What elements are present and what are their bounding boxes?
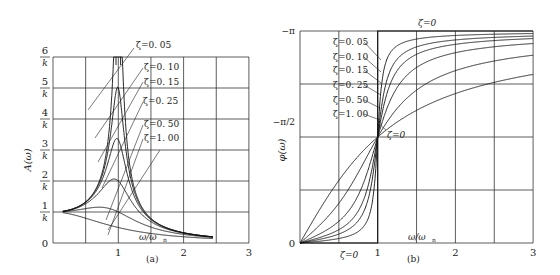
amplitude-panel-label: (a) bbox=[146, 254, 158, 264]
amplitude-y-tick-denominator: k bbox=[42, 120, 47, 130]
phase-zeta0-bottom-label: ζ=0 bbox=[340, 250, 358, 260]
amplitude-x-tick: 2 bbox=[180, 247, 186, 258]
amplitude-x-tick: 1 bbox=[115, 247, 121, 258]
phase-panel-label: (b) bbox=[407, 254, 420, 264]
phase-x-axis-label-main: ω/ω bbox=[408, 232, 426, 242]
phase-plot: −π −π/2 0 123 ζ=0. 05ζ=0. 10ζ=0. 15ζ=0. … bbox=[273, 18, 537, 264]
phase-zeta-label: ζ=0. 15 bbox=[333, 65, 369, 75]
amplitude-y-tick-numerator: 1 bbox=[42, 200, 48, 211]
amplitude-y-tick-numerator: 3 bbox=[42, 138, 48, 149]
phase-zeta-label: ζ=0. 25 bbox=[333, 80, 369, 90]
amplitude-y-tick-numerator: 2 bbox=[42, 169, 48, 180]
amplitude-y-tick-numerator: 5 bbox=[42, 76, 48, 87]
amplitude-x-tick: 3 bbox=[246, 247, 252, 258]
amplitude-zeta-label: ζ=0. 15 bbox=[144, 77, 180, 87]
phase-zeta-label: ζ=1. 00 bbox=[333, 109, 369, 119]
phase-grid bbox=[300, 31, 533, 243]
phase-y-tick-minus-half-pi: −π/2 bbox=[273, 117, 295, 127]
amplitude-x-axis-label-sub: n bbox=[163, 236, 167, 243]
amplitude-y-zero: 0 bbox=[42, 238, 48, 249]
amplitude-zeta-label: ζ=0. 50 bbox=[144, 119, 180, 129]
amplitude-y-tick-denominator: k bbox=[42, 58, 47, 68]
phase-x-tick: 1 bbox=[375, 247, 381, 258]
amplitude-x-ticks: 123 bbox=[115, 247, 252, 258]
amplitude-y-tick-denominator: k bbox=[42, 89, 47, 99]
phase-x-ticks: 123 bbox=[375, 247, 537, 258]
amplitude-y-tick-denominator: k bbox=[42, 151, 47, 161]
amplitude-zeta-labels: ζ=0. 05ζ=0. 10ζ=0. 15ζ=0. 25ζ=0. 50ζ=1. … bbox=[136, 40, 180, 143]
phase-y-tick-minus-pi: −π bbox=[282, 26, 296, 36]
phase-x-tick: 3 bbox=[530, 247, 536, 258]
amplitude-y-tick-numerator: 6 bbox=[42, 45, 48, 56]
phase-zeta-label: ζ=0. 10 bbox=[333, 52, 369, 62]
amplitude-y-axis-label: A(ω) bbox=[22, 148, 33, 172]
phase-zeta0-top-label: ζ=0 bbox=[418, 18, 436, 28]
phase-zeta-label: ζ=0. 05 bbox=[333, 37, 369, 47]
amplitude-zeta-label: ζ=0. 10 bbox=[144, 62, 180, 72]
phase-x-axis-label-sub: n bbox=[432, 236, 436, 243]
amplitude-plot: 1k2k3k4k5k6k 0 123 ζ=0. 05ζ=0. 10ζ=0. 15… bbox=[0, 0, 252, 264]
phase-x-tick: 2 bbox=[452, 247, 458, 258]
phase-zeta-labels: ζ=0. 05ζ=0. 10ζ=0. 15ζ=0. 25ζ=0. 50ζ=1. … bbox=[333, 37, 369, 119]
amplitude-zeta-label: ζ=1. 00 bbox=[144, 133, 180, 143]
amplitude-zeta-label: ζ=0. 05 bbox=[136, 40, 172, 50]
phase-zeta-label: ζ=0. 50 bbox=[333, 95, 369, 105]
phase-y-tick-zero: 0 bbox=[289, 238, 295, 249]
figure: 1k2k3k4k5k6k 0 123 ζ=0. 05ζ=0. 10ζ=0. 15… bbox=[0, 0, 560, 275]
amplitude-y-ticks: 1k2k3k4k5k6k bbox=[40, 45, 50, 223]
amplitude-y-tick-numerator: 4 bbox=[42, 107, 48, 118]
amplitude-x-axis-label-main: ω/ω bbox=[139, 232, 157, 242]
phase-y-axis-label: φ(ω) bbox=[276, 138, 287, 161]
amplitude-zeta-label: ζ=0. 25 bbox=[143, 96, 179, 106]
amplitude-y-tick-denominator: k bbox=[42, 182, 47, 192]
phase-zeta0-mid-label: ζ=0 bbox=[387, 130, 405, 140]
amplitude-y-tick-denominator: k bbox=[42, 213, 47, 223]
